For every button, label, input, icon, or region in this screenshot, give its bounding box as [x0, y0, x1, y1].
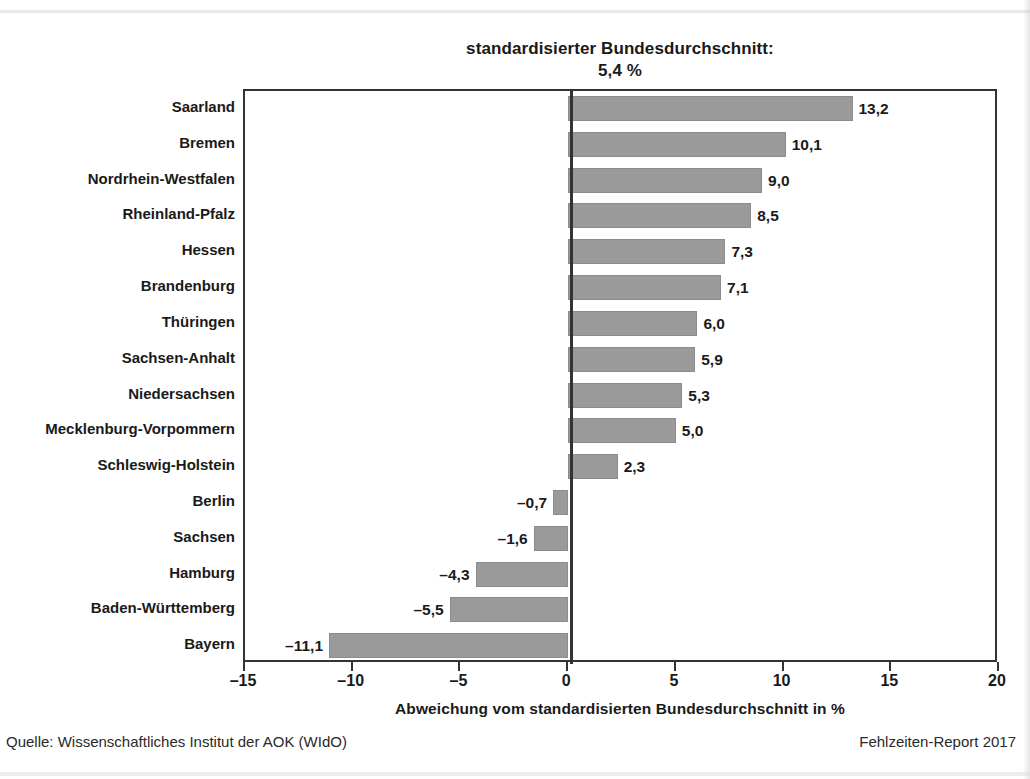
bar[interactable] [476, 562, 569, 587]
x-tick-label: 0 [536, 672, 596, 690]
bar-value-label: –11,1 [285, 634, 323, 657]
bar-value-label: 5,9 [701, 348, 723, 371]
chart-title-line2: 5,4 % [243, 60, 997, 82]
bar-row: 7,1 [245, 270, 999, 306]
category-label: Brandenburg [0, 268, 235, 304]
category-label: Saarland [0, 89, 235, 125]
category-label: Rheinland-Pfalz [0, 196, 235, 232]
chart-title: standardisierter Bundesdurchschnitt: 5,4… [243, 38, 997, 82]
bar-row: 6,0 [245, 306, 999, 342]
x-tick [997, 662, 999, 671]
x-tick [243, 662, 245, 671]
category-label: Berlin [0, 483, 235, 519]
bar[interactable] [553, 490, 568, 515]
bar-row: 8,5 [245, 198, 999, 234]
category-label: Mecklenburg-Vorpommern [0, 411, 235, 447]
x-tick-label: –15 [213, 672, 273, 690]
bar-value-label: 8,5 [757, 204, 779, 227]
bar[interactable] [568, 96, 852, 121]
bar-row: 2,3 [245, 449, 999, 485]
bar-row: 5,9 [245, 342, 999, 378]
bar-value-label: 7,3 [731, 240, 753, 263]
report-note: Fehlzeiten-Report 2017 [859, 733, 1016, 750]
bar-value-label: –1,6 [498, 527, 528, 550]
bar-value-label: 9,0 [768, 169, 790, 192]
bar[interactable] [568, 347, 695, 372]
x-tick [458, 662, 460, 671]
bar-value-label: –0,7 [517, 491, 547, 514]
x-tick [351, 662, 353, 671]
x-tick-label: 10 [752, 672, 812, 690]
x-axis-title: Abweichung vom standardisierten Bundesdu… [243, 700, 997, 718]
x-tick [782, 662, 784, 671]
bar[interactable] [568, 418, 676, 443]
x-tick [674, 662, 676, 671]
bar[interactable] [568, 239, 725, 264]
bar-row: –1,6 [245, 521, 999, 557]
bar[interactable] [450, 597, 568, 622]
source-note: Quelle: Wissenschaftliches Institut der … [6, 733, 347, 750]
bar[interactable] [568, 275, 721, 300]
bar-value-label: 5,3 [688, 384, 710, 407]
bar-value-label: 7,1 [727, 276, 749, 299]
category-label: Hamburg [0, 555, 235, 591]
bar-row: 10,1 [245, 127, 999, 163]
category-label: Bayern [0, 626, 235, 662]
bar[interactable] [534, 526, 568, 551]
category-label: Baden-Württemberg [0, 590, 235, 626]
bar-value-label: 5,0 [682, 419, 704, 442]
bar-row: –11,1 [245, 628, 999, 664]
zero-reference-line [570, 91, 573, 664]
bar-value-label: 6,0 [703, 312, 725, 335]
scan-artifact-bottom [0, 772, 1030, 776]
category-label: Sachsen [0, 519, 235, 555]
x-axis: –15–10–505101520 [243, 662, 997, 702]
category-label: Schleswig-Holstein [0, 447, 235, 483]
bar[interactable] [568, 132, 786, 157]
bar-value-label: –4,3 [439, 563, 469, 586]
category-label: Niedersachsen [0, 376, 235, 412]
bar[interactable] [568, 454, 618, 479]
category-label: Nordrhein-Westfalen [0, 161, 235, 197]
bar-row: –4,3 [245, 557, 999, 593]
category-label: Sachsen-Anhalt [0, 340, 235, 376]
x-tick-label: 5 [644, 672, 704, 690]
chart-figure: standardisierter Bundesdurchschnitt: 5,4… [0, 0, 1030, 779]
chart-title-line1: standardisierter Bundesdurchschnitt: [243, 38, 997, 60]
bar[interactable] [568, 203, 751, 228]
category-label: Hessen [0, 232, 235, 268]
scan-artifact-right [1023, 0, 1030, 779]
plot-area: 13,210,19,08,57,37,16,05,95,35,02,3–0,7–… [243, 89, 997, 662]
bar-row: –5,5 [245, 592, 999, 628]
bar[interactable] [568, 168, 762, 193]
x-tick-label: –10 [321, 672, 381, 690]
bar-row: –0,7 [245, 485, 999, 521]
bar-row: 5,3 [245, 378, 999, 414]
bar[interactable] [568, 311, 697, 336]
bar-row: 13,2 [245, 91, 999, 127]
category-label: Bremen [0, 125, 235, 161]
bar-row: 9,0 [245, 163, 999, 199]
bar[interactable] [568, 383, 682, 408]
scan-artifact-top [0, 10, 1030, 13]
bar-row: 5,0 [245, 413, 999, 449]
bar-value-label: 10,1 [792, 133, 822, 156]
bar-value-label: 13,2 [859, 97, 889, 120]
x-tick-label: 20 [967, 672, 1027, 690]
bar-row: 7,3 [245, 234, 999, 270]
x-tick [566, 662, 568, 671]
x-tick [889, 662, 891, 671]
x-tick-label: –5 [428, 672, 488, 690]
category-label: Thüringen [0, 304, 235, 340]
x-tick-label: 15 [859, 672, 919, 690]
bar-value-label: 2,3 [624, 455, 646, 478]
bar-value-label: –5,5 [414, 598, 444, 621]
bar[interactable] [329, 633, 568, 658]
